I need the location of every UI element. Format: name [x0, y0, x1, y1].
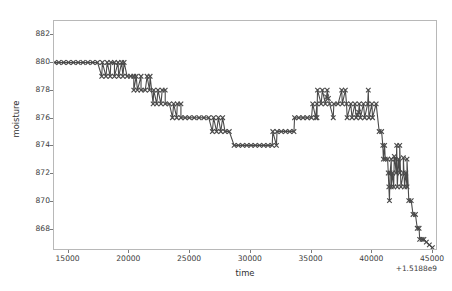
data-point-marker	[430, 245, 435, 249]
x-tick-label: 35000	[299, 254, 323, 263]
x-tick-mark	[311, 250, 312, 253]
y-tick-label: 880	[0, 57, 56, 66]
x-tick-mark	[128, 250, 129, 253]
x-tick-label: 20000	[116, 254, 140, 263]
series-line	[55, 62, 433, 247]
y-axis-label: moisture	[11, 79, 21, 159]
x-tick-label: 45000	[420, 254, 444, 263]
y-tick-label: 874	[0, 140, 56, 149]
x-axis-offset-label: +1.5188e9	[337, 264, 437, 273]
matplotlib-figure: 882880878876874872870868 150002000025000…	[0, 0, 452, 291]
plot-svg	[54, 21, 436, 249]
y-tick-label: 870	[0, 196, 56, 205]
plot-area	[53, 20, 437, 250]
x-tick-mark	[371, 250, 372, 253]
y-tick-label: 876	[0, 113, 56, 122]
x-tick-mark	[432, 250, 433, 253]
x-tick-label: 25000	[177, 254, 201, 263]
x-tick-mark	[189, 250, 190, 253]
y-tick-label: 882	[0, 29, 56, 38]
y-tick-label: 878	[0, 85, 56, 94]
y-tick-label: 868	[0, 224, 56, 233]
x-tick-mark	[68, 250, 69, 253]
x-tick-label: 15000	[55, 254, 79, 263]
x-tick-label: 30000	[238, 254, 262, 263]
x-tick-mark	[250, 250, 251, 253]
data-series-layer	[54, 60, 435, 249]
y-tick-label: 872	[0, 168, 56, 177]
x-tick-label: 40000	[359, 254, 383, 263]
